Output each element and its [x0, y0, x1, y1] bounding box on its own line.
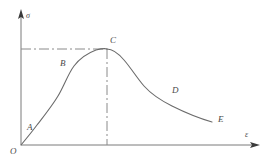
point-label-b: B — [60, 59, 66, 68]
point-label-c: C — [110, 36, 116, 45]
point-label-a: A — [27, 123, 33, 132]
point-label-d: D — [172, 86, 179, 95]
origin-label: O — [10, 147, 17, 156]
x-axis-label-epsilon: ε — [245, 131, 248, 139]
point-label-e: E — [218, 115, 224, 124]
curve-canvas — [0, 0, 267, 161]
y-axis-label-sigma: σ — [26, 12, 30, 20]
stress-strain-figure: σ ε O A B C D E — [0, 0, 267, 161]
stress-strain-curve-path — [21, 49, 212, 145]
